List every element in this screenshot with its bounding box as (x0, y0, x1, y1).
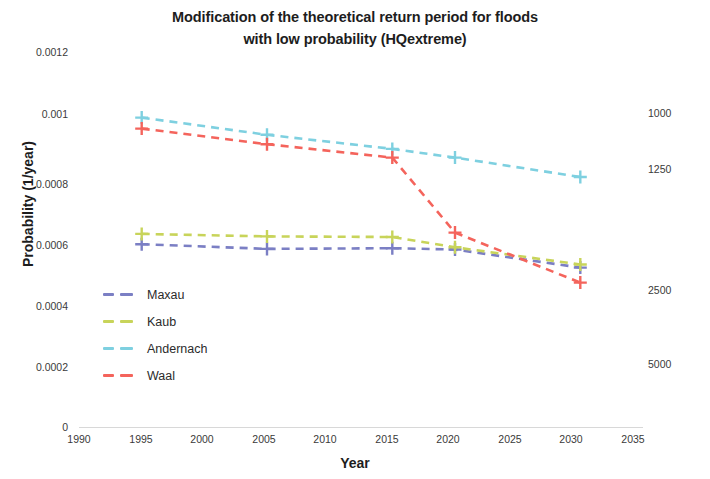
x-tick-label-2000: 2000 (172, 433, 232, 445)
x-tick-label-2010: 2010 (295, 433, 355, 445)
data-point-marker (449, 241, 462, 254)
legend-item-waal[interactable]: Waal (103, 362, 207, 389)
data-point-marker (386, 151, 399, 164)
plot-area (0, 0, 710, 479)
series-line (142, 234, 581, 265)
series-layer (135, 111, 587, 289)
data-point-marker (449, 226, 462, 239)
data-point-marker (574, 171, 587, 184)
series-waal (135, 122, 587, 289)
legend-label-maxau: Maxau (147, 288, 185, 302)
x-tick-label-2035: 2035 (603, 433, 663, 445)
y-tick-right-label-1000: 1000 (648, 107, 702, 119)
series-line (142, 129, 581, 283)
legend-label-kaub: Kaub (147, 315, 176, 329)
data-point-marker (135, 111, 148, 124)
chart-title-line-2: with low probability (HQextreme) (0, 28, 710, 50)
x-tick-label-1995: 1995 (111, 433, 171, 445)
x-tick-label-2005: 2005 (234, 433, 294, 445)
x-tick-label-2015: 2015 (357, 433, 417, 445)
data-point-marker (261, 138, 274, 151)
data-point-marker (386, 142, 399, 155)
legend-label-andernach: Andernach (147, 342, 207, 356)
x-tick-label-2020: 2020 (418, 433, 478, 445)
y-tick-right-label-5000: 5000 (648, 358, 702, 370)
legend-item-maxau[interactable]: Maxau (103, 281, 207, 308)
data-point-marker (135, 227, 148, 240)
y-tick-label-0.0004: 0.0004 (6, 300, 68, 312)
y-tick-label-0.0008: 0.0008 (6, 178, 68, 190)
x-axis-title: Year (0, 455, 710, 471)
legend-swatch-waal (103, 374, 136, 377)
chart-figure: Modification of the theoretical return p… (0, 0, 710, 479)
data-point-marker (574, 261, 587, 274)
series-line (142, 118, 581, 177)
data-point-marker (449, 151, 462, 164)
y-tick-label-0.0002: 0.0002 (6, 361, 68, 373)
data-point-marker (261, 230, 274, 243)
y-tick-label-0.001: 0.001 (6, 108, 68, 120)
series-andernach (135, 111, 587, 183)
chart-legend: Maxau Kaub Andernach Waal (103, 281, 207, 389)
x-tick-label-1990: 1990 (49, 433, 109, 445)
data-point-marker (386, 242, 399, 255)
data-point-marker (135, 122, 148, 135)
y-tick-label-0.0012: 0.0012 (6, 46, 68, 58)
legend-item-andernach[interactable]: Andernach (103, 335, 207, 362)
data-point-marker (386, 231, 399, 244)
x-tick-label-2025: 2025 (480, 433, 540, 445)
legend-swatch-andernach (103, 347, 136, 350)
data-point-marker (261, 128, 274, 141)
legend-item-kaub[interactable]: Kaub (103, 308, 207, 335)
y-tick-right-label-1250: 1250 (648, 163, 702, 175)
data-point-marker (261, 242, 274, 255)
legend-label-waal: Waal (147, 369, 175, 383)
x-axis-baseline (79, 427, 643, 428)
chart-title-line-1: Modification of the theoretical return p… (0, 6, 710, 28)
legend-swatch-kaub (103, 320, 136, 323)
y-tick-right-label-2500: 2500 (648, 284, 702, 296)
series-kaub (135, 227, 587, 271)
data-point-marker (574, 276, 587, 289)
y-axis-title-left: Probability (1/year) (20, 84, 36, 324)
legend-swatch-maxau (103, 293, 136, 296)
data-point-marker (574, 258, 587, 271)
y-tick-label-0.0006: 0.0006 (6, 239, 68, 251)
data-point-marker (135, 238, 148, 251)
data-point-marker (449, 243, 462, 256)
chart-title: Modification of the theoretical return p… (0, 6, 710, 50)
series-line (142, 244, 581, 267)
y-tick-label-0: 0 (6, 421, 68, 433)
x-tick-label-2030: 2030 (541, 433, 601, 445)
series-maxau (135, 238, 587, 274)
